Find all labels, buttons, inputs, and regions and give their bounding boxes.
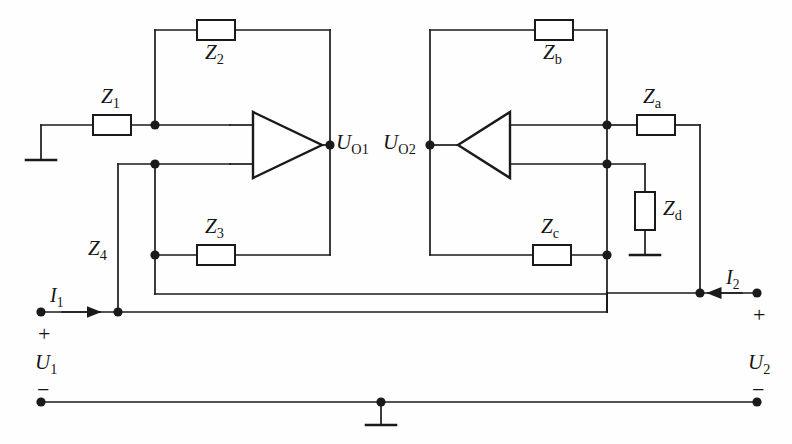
label-z2: Z2 [205,42,224,66]
node-bottom-ground [376,397,385,406]
resistor-zd [635,192,655,230]
node-uo2 [425,140,434,149]
label-zd: Zd [663,198,682,222]
label-u1: U1 [35,352,58,376]
label-zc: Zc [541,216,559,240]
terminal-output-plus [752,288,761,297]
op-amp-1-body [253,112,322,178]
op-amp-2-body [458,112,510,178]
label-z1: Z1 [101,86,120,110]
resistor-z1 [93,115,131,135]
ground-left-input [26,125,56,160]
label-uo2: UO2 [383,132,416,156]
label-za: Za [643,86,661,110]
resistor-za [637,115,675,135]
node-uo1 [325,140,334,149]
node-z4-bottom [113,307,122,316]
node-inverting-1 [150,120,159,129]
label-output-minus: − [752,377,764,403]
label-u2: U2 [748,352,771,376]
node-za-left [602,120,611,129]
label-zb: Zb [543,42,562,66]
terminal-input-plus [36,307,45,316]
node-z3-left [150,250,159,259]
label-z3: Z3 [205,216,224,240]
resistor-zc [533,245,571,265]
resistor-zb [535,20,573,40]
label-input-plus: + [38,321,50,347]
label-input-minus: − [37,377,49,403]
label-output-plus: + [753,302,765,328]
circuit-diagram-canvas: Z1 Z2 Z3 Z4 Za Zb Zc Zd UO1 UO2 I1 + U1 … [0,0,792,444]
resistor-z3 [197,245,235,265]
label-uo1: UO1 [336,132,369,156]
node-zd-top [602,159,611,168]
node-zc-right [602,250,611,259]
label-z4: Z4 [88,238,107,262]
node-port2-top [695,288,704,297]
label-i1: I1 [50,285,64,310]
node-noninverting-1 [150,159,159,168]
label-i2: I2 [726,267,740,292]
resistor-z2 [197,20,235,40]
